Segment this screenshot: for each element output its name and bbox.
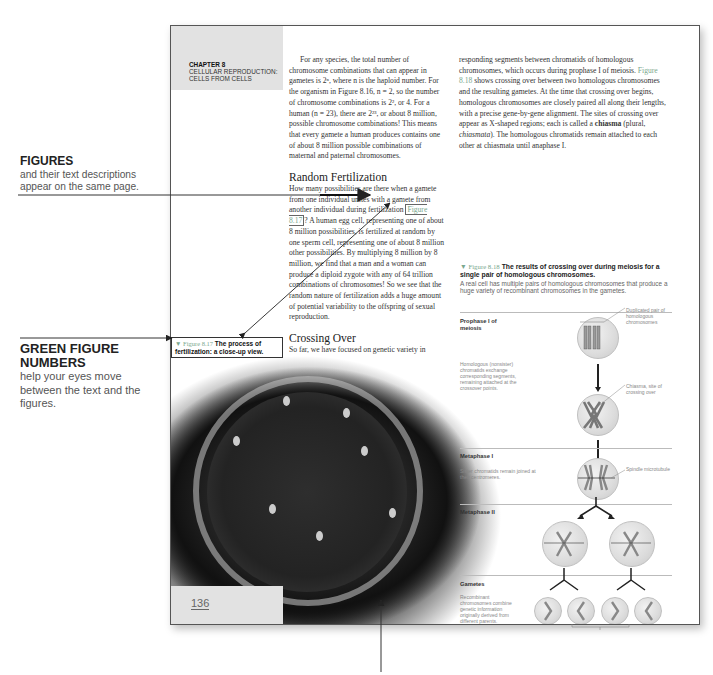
chapter-title-line2: CELLS FROM CELLS <box>189 75 252 82</box>
stage-prophase-label: Prophase I of meiosis <box>460 318 510 332</box>
metaphase2-cell-left <box>542 521 588 567</box>
note-sister-chromatids: Sister chromatids remain joined at their… <box>460 468 540 480</box>
figure-8-18-description: A real cell has multiple pairs of homolo… <box>460 280 672 295</box>
gamete-cell <box>567 597 595 625</box>
annotation-green-numbers: GREEN FIGURE NUMBERS help your eyes move… <box>20 342 160 411</box>
callout-chiasma: Chiasma, site of crossing over <box>626 383 672 395</box>
paragraph-chromosome-combinations: For any species, the total number of chr… <box>289 55 444 162</box>
textbook-page: CHAPTER 8 CELLULAR REPRODUCTION: CELLS F… <box>170 25 700 625</box>
annotation-figures: FIGURES and their text descriptions appe… <box>20 155 170 193</box>
gamete-cell <box>601 597 629 625</box>
chapter-header-box: CHAPTER 8 CELLULAR REPRODUCTION: CELLS F… <box>171 26 283 90</box>
gamete-cell <box>534 597 562 625</box>
sperm-head <box>343 408 350 418</box>
text: responding segments between chromatids o… <box>459 55 638 75</box>
annotation-green-numbers-heading: GREEN FIGURE NUMBERS <box>20 342 160 370</box>
figure-8-17-number: ▼ Figure 8.17 <box>175 340 213 347</box>
divider <box>460 448 672 449</box>
figure-8-18-title: ▼ Figure 8.18 The results of crossing ov… <box>460 263 672 279</box>
annotation-figures-heading: FIGURES <box>20 155 170 169</box>
heading-crossing-over: Crossing Over <box>289 331 444 345</box>
term-chiasma: chiasma <box>595 119 622 128</box>
callout-duplicated-pair: Duplicated pair of homologous chromosome… <box>626 307 672 325</box>
fertilization-micrograph: 136 <box>171 356 501 624</box>
annotation-figures-body: and their text descriptions appear on th… <box>20 169 170 193</box>
callout-spindle: Spindle microtubule <box>626 466 672 472</box>
divider <box>460 504 672 505</box>
note-homologous-exchange: Homologous (nonsister) chromatids exchan… <box>460 361 532 391</box>
divider <box>460 575 672 576</box>
term-chiasmata: chiasmata <box>459 130 490 139</box>
sperm-head <box>233 436 240 446</box>
paragraph-chiasma: responding segments between chromatids o… <box>459 55 669 151</box>
gamete-cell <box>634 597 662 625</box>
page-number-box: 136 <box>171 586 283 624</box>
figure-8-18-number: ▼ Figure 8.18 <box>460 263 500 270</box>
chapter-number: CHAPTER 8 <box>189 61 225 68</box>
stage-metaphase1-label: Metaphase I <box>460 453 493 460</box>
heading-random-fertilization: Random Fertilization <box>289 170 444 184</box>
metaphase2-cell-right <box>609 521 655 567</box>
figure-8-17-caption: ▼ Figure 8.17 The process of fertilizati… <box>171 337 283 358</box>
text: (plural, <box>621 119 645 128</box>
chapter-title-line1: CELLULAR REPRODUCTION: <box>189 68 277 75</box>
stage-metaphase2-label: Metaphase II <box>460 509 495 516</box>
sperm-head <box>316 531 323 541</box>
annotation-green-numbers-body: help your eyes move between the text and… <box>20 370 160 411</box>
sperm-head <box>361 446 368 456</box>
chapter-label: CHAPTER 8 CELLULAR REPRODUCTION: CELLS F… <box>189 61 277 83</box>
sperm-head <box>283 396 290 406</box>
sperm-head <box>269 504 276 514</box>
paragraph-random-fertilization: How many possibilities are there when a … <box>289 184 444 323</box>
note-recombinant: Recombinant chromosomes combine genetic … <box>460 594 520 624</box>
arrow-down-icon <box>597 440 599 460</box>
text-column-1: For any species, the total number of chr… <box>289 55 444 388</box>
text-column-2: responding segments between chromatids o… <box>459 55 669 151</box>
stage-gametes-label: Gametes <box>460 581 485 588</box>
metaphase1-cell <box>577 458 619 500</box>
sperm-head <box>389 508 396 518</box>
egg-cell <box>207 392 407 592</box>
text: ? A human egg cell, representing one of … <box>289 216 444 321</box>
page-number: 136 <box>191 597 209 610</box>
prophase-cell <box>577 317 619 359</box>
figure-8-18-header: ▼ Figure 8.18 The results of crossing ov… <box>460 263 672 294</box>
arrow-down-icon <box>597 364 599 388</box>
chiasma-cell <box>577 394 619 436</box>
